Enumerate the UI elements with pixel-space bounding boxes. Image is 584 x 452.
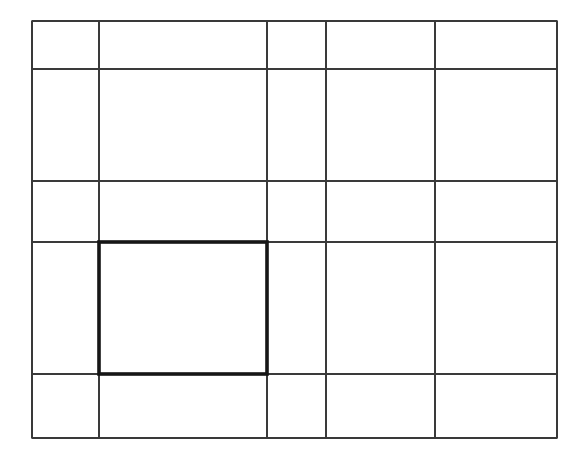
highlighted-cell	[99, 242, 267, 374]
grid-diagram	[0, 0, 584, 452]
